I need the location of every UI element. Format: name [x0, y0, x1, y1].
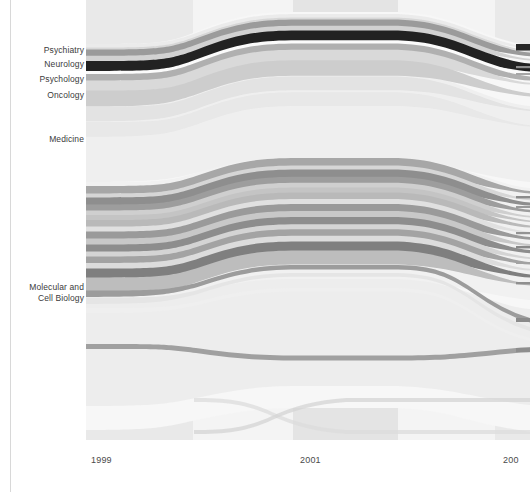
streamgraph-figure: Psychiatry Neurology Psychology Oncology… [0, 0, 530, 492]
stream-label-psychology: Psychology [40, 74, 84, 85]
stream-label-column: Psychiatry Neurology Psychology Oncology… [12, 0, 84, 440]
x-axis: 1999 2001 200 [86, 440, 530, 492]
stream-label-medicine: Medicine [49, 134, 84, 145]
stream-label-oncology: Oncology [47, 90, 84, 101]
panel-left-rule [10, 0, 11, 492]
x-tick-2001: 2001 [300, 455, 321, 465]
stream-label-psychiatry: Psychiatry [44, 45, 84, 56]
stream-label-neurology: Neurology [44, 59, 84, 70]
x-tick-2003: 200 [503, 455, 519, 465]
plot-area [86, 0, 530, 440]
x-tick-1999: 1999 [91, 455, 112, 465]
streamgraph-svg [86, 0, 530, 440]
stream-label-molecular-and-cell-biology: Molecular and Cell Biology [29, 282, 84, 304]
